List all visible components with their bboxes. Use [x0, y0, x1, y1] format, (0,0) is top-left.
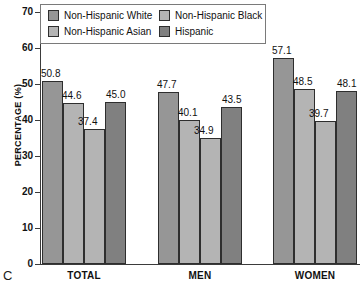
bar-value-label: 47.7 — [157, 79, 176, 90]
legend-swatch — [48, 26, 59, 37]
x-axis-line — [40, 264, 360, 265]
y-axis-tick — [35, 264, 40, 265]
legend-entry: Hispanic — [159, 26, 213, 37]
y-axis-tick-label: 10 — [0, 222, 33, 233]
bar-value-label: 57.1 — [272, 45, 291, 56]
bar — [336, 91, 357, 264]
bar — [84, 129, 105, 264]
y-axis-tick-label: 0 — [0, 258, 33, 269]
y-axis-tick — [35, 48, 40, 49]
legend-entry: Non-Hispanic Black — [159, 10, 262, 21]
bar-value-label: 45.0 — [106, 89, 125, 100]
y-axis-tick-label: 50 — [0, 78, 33, 89]
bar — [63, 103, 84, 264]
bar — [273, 58, 294, 264]
bar-value-label: 44.6 — [62, 90, 81, 101]
x-axis-group-label: WOMEN — [273, 270, 357, 281]
y-axis-tick — [35, 120, 40, 121]
bar — [200, 138, 221, 264]
y-axis-tick — [35, 192, 40, 193]
bar — [315, 121, 336, 264]
legend-label: Hispanic — [175, 26, 213, 37]
bar — [179, 120, 200, 264]
y-axis-tick-label: 60 — [0, 42, 33, 53]
legend-swatch — [48, 10, 59, 21]
bar-value-label: 40.1 — [178, 107, 197, 118]
bar-chart-figure: C PERCENTAGE (%) 010203040506070 50.844.… — [0, 0, 362, 291]
bar — [221, 107, 242, 264]
bar-value-label: 37.4 — [78, 116, 97, 127]
y-axis-tick-label: 30 — [0, 150, 33, 161]
legend-swatch — [159, 10, 170, 21]
bar — [158, 92, 179, 264]
x-axis-group-label: TOTAL — [42, 270, 126, 281]
bar-value-label: 34.9 — [194, 125, 213, 136]
legend-entry: Non-Hispanic White — [48, 10, 152, 21]
y-axis-tick-label: 20 — [0, 186, 33, 197]
bar-value-label: 43.5 — [222, 94, 241, 105]
y-axis-tick-label: 70 — [0, 6, 33, 17]
bar — [105, 102, 126, 264]
chart-legend: Non-Hispanic WhiteNon-Hispanic BlackNon-… — [40, 4, 266, 44]
legend-label: Non-Hispanic White — [64, 10, 152, 21]
y-axis-tick — [35, 228, 40, 229]
bar-value-label: 50.8 — [41, 68, 60, 79]
bar-value-label: 48.1 — [337, 78, 356, 89]
y-axis-tick-label: 40 — [0, 114, 33, 125]
bar — [42, 81, 63, 264]
legend-label: Non-Hispanic Asian — [64, 26, 151, 37]
x-axis-group-label: MEN — [158, 270, 242, 281]
panel-letter: C — [3, 268, 12, 283]
y-axis-tick — [35, 84, 40, 85]
bar-value-label: 48.5 — [293, 76, 312, 87]
legend-label: Non-Hispanic Black — [175, 10, 262, 21]
bar-value-label: 39.7 — [309, 108, 328, 119]
legend-entry: Non-Hispanic Asian — [48, 26, 151, 37]
y-axis-title: PERCENTAGE (%) — [13, 45, 23, 205]
y-axis-tick — [35, 156, 40, 157]
y-axis-line — [40, 12, 41, 264]
legend-swatch — [159, 26, 170, 37]
